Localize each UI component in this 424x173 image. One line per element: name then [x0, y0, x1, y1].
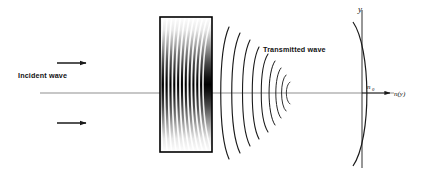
n-axis-label: n(y)	[394, 90, 406, 98]
n-zero-label: n 0	[367, 83, 375, 92]
n-zero-subscript: 0	[372, 87, 375, 92]
optics-diagram: Incident wave Transmitted wave y n(y) n …	[0, 0, 424, 173]
incident-wavefront-group	[88, 28, 154, 146]
graded-index-slab	[160, 15, 213, 154]
n-zero-base: n	[367, 83, 371, 91]
index-profile-curve	[353, 22, 367, 166]
y-axis-label: y	[357, 4, 362, 14]
figure-canvas: Incident wave Transmitted wave y n(y) n …	[0, 0, 424, 173]
transmitted-wave-label: Transmitted wave	[263, 45, 326, 54]
incident-wave-label: Incident wave	[18, 71, 67, 80]
